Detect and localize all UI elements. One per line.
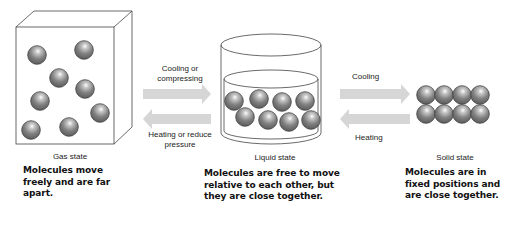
gas-state-description: Molecules move freely and are far apart. [23,165,133,200]
gas-state-title: Gas state [40,152,100,162]
label-cooling-or-compressing: Cooling or compressing [140,64,220,84]
label-heating-or-reduce-pressure: Heating or reduce pressure [137,130,223,150]
arrow-solid-to-liquid [340,109,410,129]
solid-state-title: Solid state [425,153,485,163]
solid-molecules [417,86,490,124]
label-heating: Heating [355,133,405,143]
label-cooling: Cooling [352,72,402,82]
liquid-state-description: Molecules are free to move relative to e… [204,168,354,203]
arrow-gas-to-liquid [143,84,211,104]
solid-state-description: Molecules are in fixed positions and are… [405,167,512,202]
liquid-molecules [225,90,321,132]
liquid-state-title: Liquid state [240,153,310,163]
arrow-liquid-to-gas [143,109,211,129]
gas-molecules [22,41,110,140]
arrow-liquid-to-solid [340,84,410,104]
